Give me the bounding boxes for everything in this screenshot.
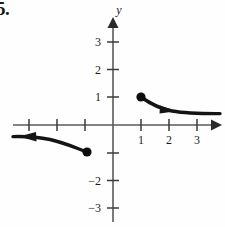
left-branch-endpoint-dot (82, 147, 91, 156)
figure-panel: 5. (0, 0, 225, 227)
tick-label-x-1: 1 (138, 133, 144, 147)
right-branch-path (141, 97, 220, 114)
curve-right-branch (136, 92, 220, 113)
right-branch-endpoint-dot (136, 92, 145, 101)
tick-label-x-2: 2 (166, 133, 172, 147)
x-axis-arrow-icon (211, 120, 222, 131)
tick-label-y-neg3: −3 (88, 201, 101, 215)
tick-label-y-neg2: −2 (88, 174, 101, 188)
graph-canvas: 1 2 3 1 2 3 −2 −3 y (0, 0, 225, 227)
axis-group (13, 17, 222, 222)
curve-left-branch (13, 132, 92, 157)
tick-label-y-3: 3 (95, 35, 101, 49)
tick-label-x-3: 3 (194, 133, 200, 147)
left-branch-path (13, 137, 87, 152)
y-axis-arrow-icon (108, 17, 119, 28)
tick-label-y-2: 2 (95, 63, 101, 77)
left-branch-arrow-icon (19, 132, 37, 142)
y-axis-label: y (115, 3, 122, 17)
tick-label-y-1: 1 (95, 90, 101, 104)
